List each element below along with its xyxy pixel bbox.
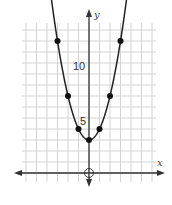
y-axis-up-arrow-icon [86,9,92,17]
y-axis-label: y [93,9,100,20]
data-point [65,93,71,99]
data-point [97,126,103,132]
data-point [107,93,113,99]
x-axis-left-arrow-icon [14,170,22,176]
parabola-graph: y x 10 5 [0,0,172,205]
y-tick-label-10: 10 [73,60,85,72]
x-axis-label: x [157,157,163,168]
data-point [86,137,92,143]
y-axis-down-arrow-icon [86,179,92,187]
data-point [55,38,61,44]
x-axis-right-arrow-icon [157,170,165,176]
y-tick-label-5: 5 [80,115,86,127]
data-point [118,38,124,44]
